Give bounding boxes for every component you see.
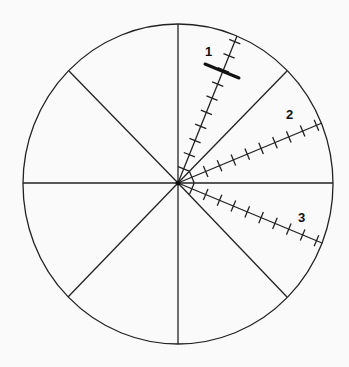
divider-diag-ll (68, 183, 178, 297)
divider-diag-ul (69, 71, 178, 183)
ray-label-2: 2 (286, 107, 293, 122)
marker-bar (205, 64, 239, 78)
ray-label-3: 3 (298, 210, 305, 225)
divider-diag-lr (178, 183, 287, 297)
ray-2 (178, 123, 322, 183)
center-point (176, 181, 181, 186)
divider-diag-ur (178, 71, 287, 183)
ray-label-1: 1 (205, 44, 212, 59)
circle-diagram: 1 2 3 (0, 0, 349, 367)
